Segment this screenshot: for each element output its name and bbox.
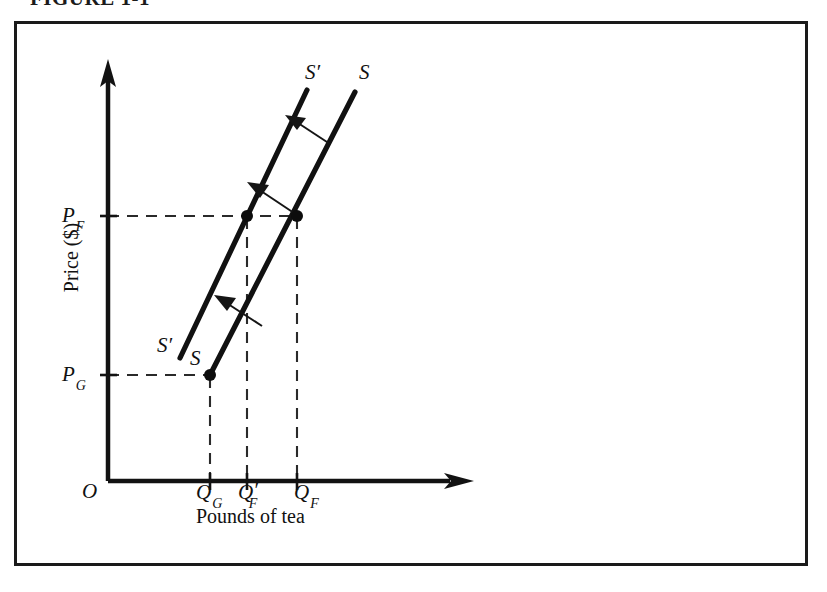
origin-label: O <box>82 481 97 502</box>
curve-label-s-top: S <box>359 62 370 83</box>
curve-label-s-bottom: S <box>190 348 201 369</box>
x-axis-title: Pounds of tea <box>196 505 305 528</box>
price-g-base: P <box>62 362 75 386</box>
x-tick-label-qty-f-prime: Q′F <box>238 482 266 506</box>
price-g-subscript: G <box>76 378 86 393</box>
y-tick-label-price-g: PG <box>62 364 85 388</box>
qty-g-base: Q <box>196 480 211 504</box>
qty-f-base: Q <box>294 480 309 504</box>
y-axis-title: Price ($) <box>60 178 83 338</box>
point-pf-sprime <box>241 210 253 222</box>
figure-caption: FIGURE 1-1 <box>30 0 150 8</box>
curve-label-s-prime-bottom: S′ <box>157 335 172 356</box>
curve-s <box>210 92 355 375</box>
curve-label-s-prime-top: S′ <box>305 62 320 83</box>
qty-f-subscript: F <box>310 496 319 511</box>
figure-root: FIGURE 1-1 <box>0 0 827 592</box>
x-tick-label-qty-g: QG <box>196 482 221 506</box>
point-pf-s <box>291 210 303 222</box>
shift-arrow-upper <box>285 115 330 144</box>
supply-shift-chart <box>14 21 808 566</box>
point-pg-s <box>204 369 216 381</box>
x-tick-label-qty-f: QF <box>294 482 318 506</box>
